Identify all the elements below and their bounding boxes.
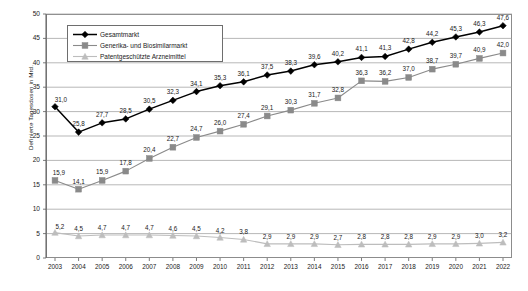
data-label: 32,8 <box>324 86 352 93</box>
x-tick-label: 2022 <box>486 263 520 270</box>
legend-label: Patentgeschützte Arzneimittel <box>98 53 186 60</box>
data-label: 47,6 <box>489 14 517 21</box>
data-label: 17,8 <box>112 159 140 166</box>
data-label: 22,7 <box>159 135 187 142</box>
data-label: 31,0 <box>47 96 75 103</box>
legend-item-2[interactable]: Patentgeschützte Arzneimittel <box>72 51 218 62</box>
y-tick-label: 25 <box>18 132 40 139</box>
data-label: 30,3 <box>277 98 305 105</box>
y-tick-label: 0 <box>18 254 40 261</box>
data-label: 15,9 <box>45 169 73 176</box>
data-label: 20,4 <box>135 146 163 153</box>
data-label: 37,0 <box>395 65 423 72</box>
series-1 <box>52 50 506 192</box>
chart-legend: GesamtmarktGenerika- und Biosimilarmarkt… <box>67 25 223 62</box>
data-label: 36,1 <box>230 70 258 77</box>
y-tick-label: 30 <box>18 108 40 115</box>
data-label: 24,7 <box>182 125 210 132</box>
data-label: 42,8 <box>395 37 423 44</box>
data-label: 46,3 <box>465 20 493 27</box>
data-label: 38,3 <box>277 59 305 66</box>
y-tick-label: 40 <box>18 59 40 66</box>
data-label: 32,3 <box>159 88 187 95</box>
y-tick-label: 35 <box>18 83 40 90</box>
data-label: 30,5 <box>135 97 163 104</box>
legend-item-1[interactable]: Generika- und Biosimilarmarkt <box>72 40 218 51</box>
data-label: 25,8 <box>65 120 93 127</box>
legend-item-0[interactable]: Gesamtmarkt <box>72 29 218 40</box>
data-label: 14,1 <box>65 178 93 185</box>
data-label: 42,0 <box>489 41 517 48</box>
triangle-marker-icon <box>72 51 98 62</box>
data-label: 3,2 <box>489 231 517 238</box>
y-tick-label: 45 <box>18 34 40 41</box>
y-tick-label: 10 <box>18 205 40 212</box>
y-tick-label: 20 <box>18 156 40 163</box>
diamond-marker-icon <box>72 29 98 40</box>
chart-container: Definierte Tagesdosen in Mrd. 0510152025… <box>0 0 528 291</box>
y-tick-label: 5 <box>18 230 40 237</box>
data-label: 28,5 <box>112 107 140 114</box>
data-label: 15,9 <box>88 168 116 175</box>
y-tick-label: 50 <box>18 10 40 17</box>
legend-label: Gesamtmarkt <box>98 31 139 38</box>
square-marker-icon <box>72 40 98 51</box>
data-label: 26,0 <box>206 119 234 126</box>
data-label: 41,3 <box>371 44 399 51</box>
legend-label: Generika- und Biosimilarmarkt <box>98 42 187 49</box>
data-label: 27,4 <box>230 112 258 119</box>
y-tick-label: 15 <box>18 181 40 188</box>
